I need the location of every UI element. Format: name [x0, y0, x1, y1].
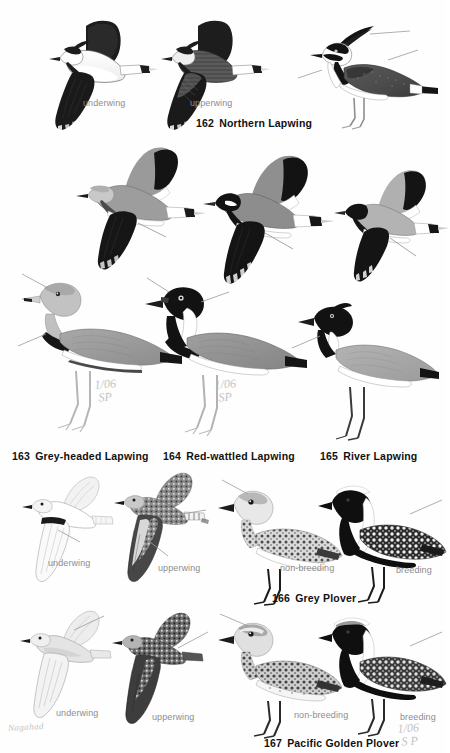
caption-name-166: Grey Plover — [295, 592, 356, 604]
caption-name-164: Red-wattled Lapwing — [186, 450, 295, 462]
label-underwing-northern-lapwing: underwing — [83, 98, 125, 108]
caption-red-wattled-lapwing: 164Red-wattled Lapwing — [163, 450, 295, 462]
figure-red-wattled-lapwing-flight — [195, 155, 340, 290]
figure-grey-plover-upperwing — [110, 470, 225, 592]
label-underwing-grey-plover: underwing — [48, 558, 90, 568]
figure-northern-lapwing-standing — [292, 20, 442, 135]
caption-number-164: 164 — [163, 450, 181, 462]
label-upperwing-northern-lapwing: upperwing — [190, 98, 232, 108]
caption-grey-headed-lapwing: 163Grey-headed Lapwing — [12, 450, 149, 462]
figure-river-lapwing-standing — [290, 300, 440, 440]
caption-number-162: 162 — [196, 117, 214, 129]
label-underwing-pacific-golden-plover: underwing — [56, 708, 98, 718]
label-upperwing-grey-plover: upperwing — [158, 563, 200, 573]
label-upperwing-pacific-golden-plover: upperwing — [152, 712, 194, 722]
annotation-pacific-golden-plover: 1/06 S P — [397, 721, 420, 748]
figure-northern-lapwing-upperwing — [134, 18, 284, 133]
annotation-grey-headed-lapwing: 1/06 SP — [94, 377, 117, 404]
figure-red-wattled-lapwing-standing — [135, 278, 310, 443]
figure-grey-headed-lapwing-flight — [66, 145, 206, 275]
figure-grey-plover-breeding — [318, 478, 446, 603]
figure-river-lapwing-flight — [330, 168, 450, 288]
caption-name-162: Northern Lapwing — [219, 117, 312, 129]
caption-name-163: Grey-headed Lapwing — [35, 450, 149, 462]
label-breeding-grey-plover: breeding — [396, 565, 432, 575]
caption-number-163: 163 — [12, 450, 30, 462]
label-non-breeding-grey-plover: non-breeding — [280, 563, 334, 573]
caption-river-lapwing: 165River Lapwing — [320, 450, 418, 462]
artist-signature: Nagahad — [8, 721, 44, 733]
caption-northern-lapwing: 162Northern Lapwing — [196, 117, 312, 129]
caption-number-167: 167 — [264, 737, 282, 749]
caption-name-165: River Lapwing — [343, 450, 417, 462]
caption-grey-plover: 166Grey Plover — [272, 592, 356, 604]
label-non-breeding-pacific-golden-plover: non-breeding — [294, 710, 348, 720]
caption-number-166: 166 — [272, 592, 290, 604]
annotation-red-wattled-lapwing: 1/06 SP — [214, 377, 237, 404]
caption-name-167: Pacific Golden Plover — [287, 737, 399, 749]
caption-pacific-golden-plover: 167Pacific Golden Plover — [264, 737, 399, 749]
caption-number-165: 165 — [320, 450, 338, 462]
